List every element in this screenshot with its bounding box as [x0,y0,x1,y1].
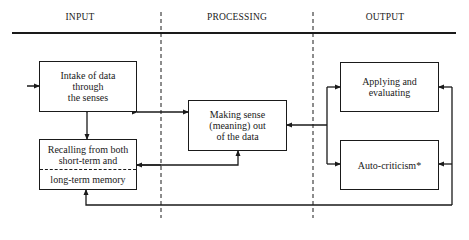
applying-line-2: evaluating [369,87,411,98]
applying-line-1: Applying and [362,76,417,87]
memory-box: Recalling from both short-term and long-… [39,139,137,190]
memory-line-3: long-term memory [50,174,125,185]
auto-line-1: Auto-criticism* [358,160,421,171]
intake-line-1: Intake of data [61,70,116,81]
sense-line-3: of the data [216,131,258,142]
sense-line-2: (meaning) out [209,120,265,131]
memory-line-2: short-term and [40,155,136,166]
memory-line-1: Recalling from both [40,144,136,155]
making-sense-box: Making sense (meaning) out of the data [188,100,287,151]
sense-line-1: Making sense [210,109,265,120]
intake-line-2: through [72,81,103,92]
applying-box: Applying and evaluating [340,62,439,112]
intake-line-3: the senses [68,92,108,103]
auto-criticism-box: Auto-criticism* [340,140,439,190]
intake-box: Intake of data through the senses [39,61,137,112]
